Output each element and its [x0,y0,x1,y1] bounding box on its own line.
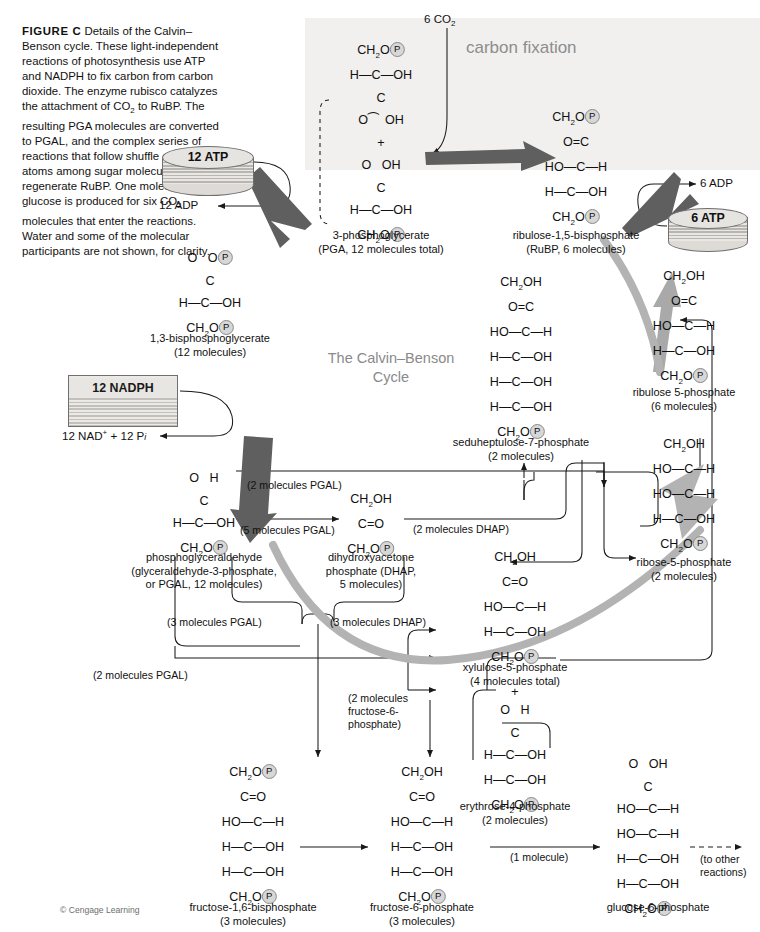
flux-to-other-reactions: (to other reactions) [700,853,747,879]
molecule-bpg-name: 1,3-bisphosphoglycerate (12 molecules) [150,332,270,359]
molecule-xylulose-5-phosphate: CH2OH C=O HO—C—H H—C—OH CH2OP [484,545,546,670]
figure-canvas: carbon fixation The Calvin–Benson Cycle … [0,0,760,932]
flux-3-molecules-dhap: (3 molecules DHAP) [330,616,426,629]
molecule-g6p-name: glucose-6-phosphate [607,901,710,915]
molecule-sedoheptulose-name: seduheptulose-7-phosphate (2 molecules) [453,436,589,463]
molecule-ribose5p-name: ribose-5-phosphate (2 molecules) [637,556,732,583]
atp-12-label: 12 ATP [162,150,254,164]
atp-12-cylinder: 12 ATP [162,146,254,196]
molecule-bpg: O OP C H—C—OH CH2OP [179,246,241,341]
atp-6-label: 6 ATP [668,211,748,225]
molecule-pga-name: 3-phosphoglycerate (PGA, 12 molecules to… [318,229,443,256]
adp-6-label: 6 ADP [700,176,733,189]
molecule-pgal-name: phosphoglyceraldehyde (glyceraldehyde-3-… [131,551,277,592]
flux-one-molecule: (1 molecule) [510,851,568,864]
flux-2-molecules-pgal-b: (2 molecules PGAL) [93,669,188,682]
molecule-sedoheptulose-7-phosphate: CH2OH O=C HO—C—H H—C—OH H—C—OH H—C—OH CH… [490,270,552,445]
molecule-dhap-name: dihydroxyacetone phosphate (DHAP, 5 mole… [326,551,416,592]
co2-input-label: 6 CO2 [424,12,456,28]
flux-2-molecules-f6p: (2 molecules fructose-6- phosphate) [348,692,408,731]
nad-pi-label: 12 NAD+ + 12 Pi [62,428,146,442]
molecule-fructose-6-phosphate: CH2OH C=O HO—C—H H—C—OH H—C—OH CH2OP [391,760,453,910]
adp-12-label: 12 ADP [159,198,198,211]
molecule-glucose-6-phosphate: O OH C HO—C—H HO—C—H H—C—OH H—C—OH CH2OP [617,752,679,922]
nadph-12-label: 12 NADPH [69,378,177,398]
molecule-pgal: O H C H—C—OH CH2OP [173,466,235,561]
molecule-ribose-5-phosphate: CH2OH HO—C—H HO—C—H H—C—OH CH2OP [653,432,715,557]
molecule-f6p-name: fructose-6-phosphate (3 molecules) [370,901,474,928]
molecule-pga: CH2OP H—C—OH C O⁀ OH + O OH C H—C—OH CH2… [350,38,412,248]
molecule-rubp: CH2OP O=C HO—C—H H—C—OH CH2OP [545,105,607,230]
molecule-rubp-name: ribulose-1,5-bisphosphate (RuBP, 6 molec… [513,229,640,256]
copyright-notice: © Cengage Learning [60,905,139,915]
molecule-fructose-1-6-bisphosphate: CH2OP C=O HO—C—H H—C—OH H—C—OH CH2OP [222,760,284,910]
molecule-fbp-name: fructose-1,6-bisphosphate (3 molecules) [189,901,316,928]
plus-sign-xylulose: + [511,684,519,699]
molecule-ribulose5p-name: ribulose 5-phosphate (6 molecules) [633,386,736,413]
molecule-erythrose4p-name: erythrose-4-phosphate (2 molecules) [460,800,571,827]
flux-2-molecules-dhap: (2 molecules DHAP) [413,523,509,536]
flux-2-molecules-pgal: (2 molecules PGAL) [247,479,342,492]
flux-5-molecules-pgal: (5 molecules PGAL) [240,524,335,537]
nadph-12-block: 12 NADPH [68,375,178,427]
molecule-ribulose-5-phosphate: CH2OH O=C HO—C—H H—C—OH CH2OP [653,264,715,389]
flux-3-molecules-pgal: (3 molecules PGAL) [167,616,262,629]
atp-6-cylinder: 6 ATP [668,208,748,252]
